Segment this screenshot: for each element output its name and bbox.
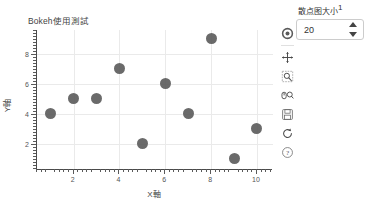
x-axis-major-tick (256, 169, 257, 174)
y-axis-minor-tick (33, 117, 36, 118)
pan-tool-icon[interactable] (280, 50, 295, 65)
y-axis-minor-tick (33, 108, 36, 109)
svg-text:?: ? (285, 149, 288, 157)
y-axis-minor-tick (33, 132, 36, 133)
x-axis-minor-tick (183, 169, 184, 172)
bokeh-app: Bokeh使用測試 X軸 Y軸 2468102468 (0, 0, 367, 204)
scatter-point[interactable] (68, 93, 79, 104)
x-axis-minor-tick (63, 169, 64, 172)
x-axis-tick-label: 2 (71, 176, 75, 183)
x-axis-minor-tick (77, 169, 78, 172)
y-axis-minor-tick (33, 165, 36, 166)
x-axis-minor-tick (151, 169, 152, 172)
scatter-point[interactable] (160, 78, 171, 89)
x-axis-minor-tick (192, 169, 193, 172)
x-axis-minor-tick (82, 169, 83, 172)
x-axis-minor-tick (109, 169, 110, 172)
toolbar-divider (281, 45, 294, 46)
scatter-size-stepper[interactable]: 20 (296, 19, 364, 40)
y-axis-minor-tick (33, 168, 36, 169)
x-axis-minor-tick (201, 169, 202, 172)
y-axis-tick-label: 6 (14, 80, 29, 87)
scatter-point[interactable] (137, 138, 148, 149)
y-axis-minor-tick (33, 36, 36, 37)
y-axis-tick-label: 8 (14, 50, 29, 57)
scatter-point[interactable] (45, 108, 56, 119)
spinner-increment-icon[interactable] (349, 22, 357, 27)
y-axis-major-tick (31, 114, 36, 115)
y-axis-minor-tick (33, 87, 36, 88)
x-axis-minor-tick (91, 169, 92, 172)
x-axis-minor-tick (100, 169, 101, 172)
x-axis-minor-tick (219, 169, 220, 172)
y-axis-minor-tick (33, 120, 36, 121)
x-axis-minor-tick (132, 169, 133, 172)
x-axis-minor-tick (54, 169, 55, 172)
y-axis-minor-tick (33, 99, 36, 100)
x-axis-minor-tick (224, 169, 225, 172)
box-zoom-tool-icon[interactable] (280, 69, 295, 84)
scatter-point[interactable] (251, 123, 262, 134)
x-axis-minor-tick (261, 169, 262, 172)
y-axis-minor-tick (33, 111, 36, 112)
scatter-point[interactable] (229, 153, 240, 164)
x-axis-minor-tick (41, 169, 42, 172)
y-axis-minor-tick (33, 129, 36, 130)
scatter-point[interactable] (183, 108, 194, 119)
grid-line-horizontal (37, 54, 273, 55)
page-title: Bokeh使用測試 (28, 14, 89, 26)
x-axis-major-tick (73, 169, 74, 174)
save-tool-icon[interactable] (280, 107, 295, 122)
x-axis-line (36, 169, 272, 170)
y-axis-minor-tick (33, 141, 36, 142)
scatter-size-value[interactable]: 20 (304, 25, 314, 35)
y-axis-minor-tick (33, 66, 36, 67)
reset-tool-icon[interactable] (280, 126, 295, 141)
x-axis-minor-tick (270, 169, 271, 172)
x-axis-minor-tick (265, 169, 266, 172)
y-axis-minor-tick (33, 33, 36, 34)
x-axis-tick-label: 10 (252, 176, 260, 183)
plot-frame[interactable] (36, 30, 273, 169)
help-tool-icon[interactable]: ? (280, 145, 295, 160)
y-axis-minor-tick (33, 102, 36, 103)
grid-line-horizontal (37, 144, 273, 145)
scatter-size-widget: 散点图大小1 20 (296, 6, 364, 40)
x-axis-minor-tick (45, 169, 46, 172)
grid-line-vertical (119, 30, 120, 169)
grid-line-vertical (165, 30, 166, 169)
y-axis-minor-tick (33, 138, 36, 139)
x-axis-minor-tick (251, 169, 252, 172)
x-axis-label: X軸 (147, 188, 160, 199)
x-axis-minor-tick (160, 169, 161, 172)
grid-line-horizontal (37, 84, 273, 85)
grid-line-horizontal (37, 114, 273, 115)
y-axis-minor-tick (33, 123, 36, 124)
x-axis-minor-tick (247, 169, 248, 172)
spinner-decrement-icon[interactable] (349, 32, 357, 37)
y-axis-minor-tick (33, 72, 36, 73)
y-axis-minor-tick (33, 78, 36, 79)
x-axis-tick-label: 4 (117, 176, 121, 183)
wheel-zoom-tool-icon[interactable] (280, 88, 295, 103)
y-axis-minor-tick (33, 147, 36, 148)
y-axis-minor-tick (33, 162, 36, 163)
y-axis-minor-tick (33, 63, 36, 64)
y-axis-label: Y軸 (1, 99, 12, 112)
scatter-point[interactable] (206, 33, 217, 44)
y-axis-line (36, 30, 37, 169)
x-axis-tick-label: 6 (162, 176, 166, 183)
x-axis-major-tick (164, 169, 165, 174)
x-axis-major-tick (210, 169, 211, 174)
x-axis-minor-tick (86, 169, 87, 172)
x-axis-minor-tick (36, 169, 37, 172)
y-axis-major-tick (31, 54, 36, 55)
scatter-point[interactable] (114, 63, 125, 74)
bokeh-logo-icon[interactable] (280, 26, 295, 41)
x-axis-minor-tick (238, 169, 239, 172)
x-axis-minor-tick (59, 169, 60, 172)
y-axis-minor-tick (33, 48, 36, 49)
x-axis-minor-tick (196, 169, 197, 172)
x-axis-minor-tick (228, 169, 229, 172)
scatter-point[interactable] (91, 93, 102, 104)
